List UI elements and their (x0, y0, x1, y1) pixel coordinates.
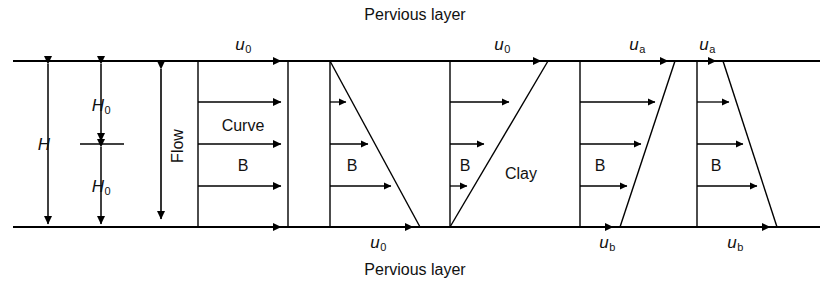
block2-bottom-pressure-u: u (370, 233, 379, 252)
dimension-label-H0-upper-text: H (92, 96, 104, 115)
block3-top-pressure-sub: 0 (504, 43, 510, 55)
dimension-label-H0-lower-sub: 0 (105, 185, 111, 197)
dimension-label-H0-lower: H0 (92, 178, 110, 195)
top-pervious-layer-label: Pervious layer (364, 7, 465, 23)
block5-top-pressure-u: u (699, 35, 708, 54)
block4-bottom-pressure-label: ub (599, 234, 615, 251)
block-increasing-triangle (450, 61, 548, 227)
block5-bottom-pressure-u: u (727, 233, 736, 252)
block4-bottom-pressure-u: u (599, 233, 608, 252)
block-decreasing-triangle (330, 61, 420, 227)
bottom-pervious-layer-label: Pervious layer (364, 262, 465, 278)
dimension-label-H0-upper-sub: 0 (105, 104, 111, 116)
block4-top-pressure-u: u (629, 35, 638, 54)
block2-bottom-pressure-label: u0 (370, 234, 386, 251)
block5-bottom-pressure-sub: b (737, 241, 743, 253)
block5-top-pressure-sub: a (709, 43, 715, 55)
dimension-label-H-text: H (38, 135, 50, 154)
block3-b-label: B (460, 158, 471, 174)
block4-top-pressure-label: ua (629, 36, 645, 53)
dimension-label-H0-lower-text: H (92, 177, 104, 196)
block5-b-label: B (711, 158, 722, 174)
flow-label: Flow (170, 129, 186, 163)
block2-b-label: B (347, 158, 358, 174)
block5-top-pressure-label: ua (699, 36, 715, 53)
dimension-label-H0-upper: H0 (92, 97, 110, 114)
block5-bottom-pressure-label: ub (727, 234, 743, 251)
dimension-label-H: H (38, 136, 50, 153)
block1-top-pressure-u: u (235, 35, 244, 54)
block1-top-pressure-label: u0 (235, 36, 251, 53)
block4-b-label: B (595, 158, 606, 174)
block1-b-label: B (238, 158, 249, 174)
block-initial-uniform (198, 61, 288, 227)
block1-curve-label: Curve (222, 118, 265, 134)
block3-clay-label: Clay (505, 166, 537, 182)
block2-bottom-pressure-sub: 0 (380, 241, 386, 253)
block-trapezoid-bottom-wide (697, 61, 777, 227)
consolidation-pressure-diagram: Pervious layer Pervious layer H H0 H0 Fl… (0, 0, 829, 291)
block3-top-pressure-label: u0 (494, 36, 510, 53)
block1-top-pressure-sub: 0 (245, 43, 251, 55)
block3-top-pressure-u: u (494, 35, 503, 54)
block-trapezoid-top-wide (580, 61, 675, 227)
block4-bottom-pressure-sub: b (609, 241, 615, 253)
block4-top-pressure-sub: a (639, 43, 645, 55)
